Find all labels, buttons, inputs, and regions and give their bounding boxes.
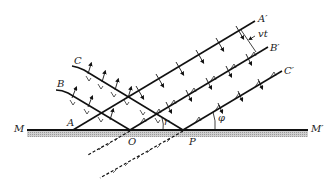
label-p: P: [189, 137, 196, 147]
label-m-prime: M′: [311, 124, 324, 134]
label-a-prime: A′: [258, 14, 268, 24]
diagram-canvas: [0, 0, 331, 192]
label-r: r: [164, 117, 169, 127]
incident-ray-arrows: [72, 64, 131, 120]
label-b: B: [57, 79, 64, 89]
wave-ticks: [140, 52, 276, 124]
label-c-prime: C′: [284, 66, 294, 76]
label-o: O: [128, 137, 136, 147]
label-m: M: [14, 124, 24, 134]
incident-ticks: [70, 76, 160, 123]
ray-arrows-b: [166, 54, 251, 112]
ray-arrows-a: [136, 26, 243, 98]
surface-mm: [27, 130, 308, 137]
label-vt: vt: [258, 29, 268, 39]
label-b-prime: B′: [270, 43, 280, 53]
vt-marker: [241, 30, 256, 52]
wave-reflection-diagram: M M′ A B C O P A′ B′ C′ vt r φ: [0, 0, 331, 192]
label-a: A: [67, 118, 74, 128]
label-phi: φ: [218, 113, 225, 123]
label-c: C: [74, 56, 82, 66]
